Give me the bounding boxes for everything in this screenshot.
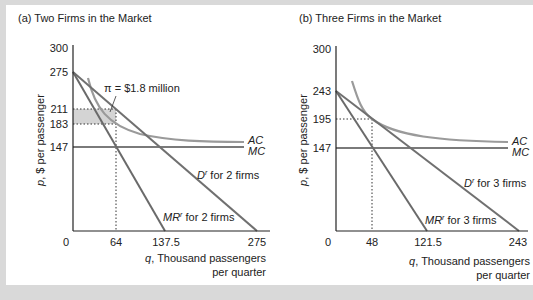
chart-title: (b) Three Firms in the Market (299, 12, 441, 24)
demand-line (336, 91, 519, 231)
mr-label: MRr for 3 firms (425, 214, 497, 226)
y-tick: 147 (50, 141, 68, 153)
demand-label: Dr for 2 firms (197, 169, 260, 181)
chart-title: (a) Two Firms in the Market (18, 12, 152, 24)
y-tick: 211 (50, 103, 68, 115)
x-tick: 0 (63, 236, 69, 248)
y-axis-label: p, $ per passenger (34, 94, 46, 187)
profit-label: π = $1.8 million (104, 82, 180, 94)
mr-label: MRr for 2 firms (163, 211, 235, 223)
charts: (a) Two Firms in the Market p, $ per pas… (0, 0, 533, 300)
mr-line (336, 91, 427, 231)
x-axis-label-2: per quarter (476, 269, 530, 281)
y-tick: 300 (50, 42, 68, 54)
y-tick: 300 (313, 43, 331, 55)
ac-curve (352, 81, 508, 142)
mr-line (73, 72, 165, 231)
x-tick: 137.5 (152, 236, 180, 248)
demand-line (73, 72, 257, 231)
x-tick: 275 (248, 236, 266, 248)
x-tick: 48 (366, 236, 378, 248)
x-tick: 64 (110, 236, 122, 248)
demand-label: Dr for 3 firms (464, 177, 527, 189)
mc-label: MC (248, 145, 265, 157)
x-axis-label-2: per quarter (212, 266, 266, 278)
x-axis-label: q, Thousand passengers (145, 252, 266, 264)
mc-label: MC (512, 146, 529, 158)
y-tick: 147 (313, 142, 331, 154)
x-tick: 243 (509, 236, 527, 248)
x-tick: 121.5 (414, 236, 442, 248)
y-tick: 183 (50, 118, 68, 130)
y-tick: 243 (313, 85, 331, 97)
chart-three-firms: (b) Three Firms in the Market p, $ per p… (297, 12, 530, 281)
x-axis-label: q, Thousand passengers (409, 255, 530, 267)
x-tick: 0 (325, 236, 331, 248)
y-axis-label: p, $ per passenger (297, 94, 309, 187)
profit-area (73, 109, 116, 124)
y-tick: 195 (313, 113, 331, 125)
y-tick: 275 (50, 66, 68, 78)
chart-two-firms: (a) Two Firms in the Market p, $ per pas… (18, 12, 270, 278)
